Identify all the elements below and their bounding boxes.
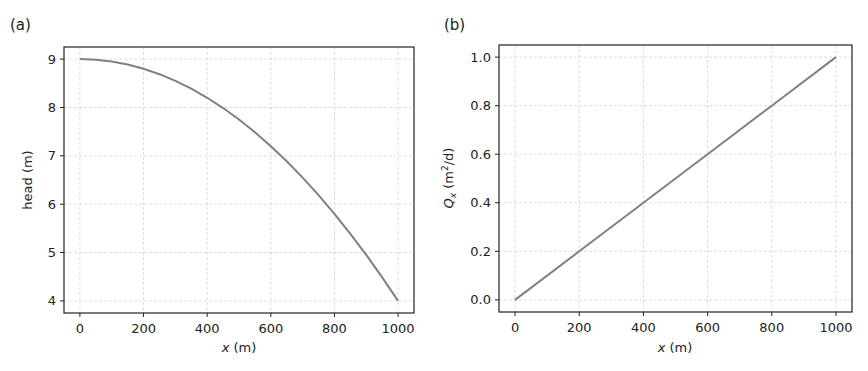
panel-b-discharge-plot: (b) 020040060080010000.00.20.40.60.81.0 … (440, 16, 853, 355)
x-tick-label: 0 (76, 321, 84, 336)
y-tick-label: 4 (48, 293, 56, 308)
panel-b-y-axis-label: Qx (m2/d) (440, 148, 458, 209)
panel-b-x-axis-label: x (m) (657, 340, 693, 355)
x-tick-label: 800 (759, 320, 784, 335)
panel-a-head-line (80, 59, 398, 301)
panel-b-ticks: 020040060080010000.00.20.40.60.81.0 (470, 50, 852, 335)
x-tick-label: 400 (195, 321, 220, 336)
panel-a-head-plot: (a) 02004006008001000456789 x (m) head (… (10, 16, 415, 355)
panel-a-y-axis-label: head (m) (20, 150, 35, 209)
panel-a-ticks: 02004006008001000456789 (48, 52, 415, 336)
figure: (a) 02004006008001000456789 x (m) head (… (0, 0, 868, 371)
x-tick-label: 200 (131, 321, 156, 336)
y-tick-label: 7 (48, 148, 56, 163)
panel-a-grid (64, 47, 414, 313)
panel-a-x-axis-label: x (m) (221, 340, 257, 355)
x-tick-label: 600 (695, 320, 720, 335)
y-tick-label: 6 (48, 197, 56, 212)
panel-b-label: (b) (444, 16, 465, 34)
panel-b-qx-line (515, 57, 836, 300)
y-tick-label: 8 (48, 100, 56, 115)
y-tick-label: 0.2 (470, 244, 491, 259)
panel-a-label: (a) (10, 16, 31, 34)
x-tick-label: 800 (322, 321, 347, 336)
x-tick-label: 0 (511, 320, 519, 335)
x-tick-label: 200 (567, 320, 592, 335)
x-tick-label: 1000 (382, 321, 415, 336)
y-tick-label: 0.8 (470, 98, 491, 113)
series-line (80, 59, 398, 301)
panel-a-axes-frame (64, 47, 414, 313)
y-tick-label: 0.0 (470, 292, 491, 307)
series-line (515, 57, 836, 300)
y-tick-label: 5 (48, 245, 56, 260)
y-tick-label: 0.4 (470, 195, 491, 210)
x-tick-label: 1000 (819, 320, 852, 335)
y-tick-label: 9 (48, 52, 56, 67)
y-tick-label: 0.6 (470, 147, 491, 162)
x-tick-label: 600 (258, 321, 283, 336)
x-tick-label: 400 (631, 320, 656, 335)
y-tick-label: 1.0 (470, 50, 491, 65)
